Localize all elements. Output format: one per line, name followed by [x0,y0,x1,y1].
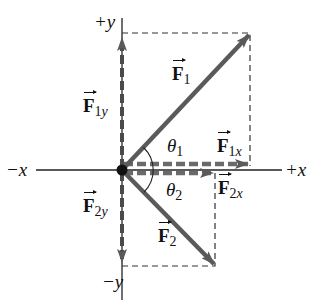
neg-y-label: −y [102,272,123,291]
theta1-label: θ1 [167,136,183,159]
neg-x-label: −x [6,160,27,179]
f2x-label: F2x [218,178,243,201]
f1-label: F1 [172,64,191,87]
f2y-label: F2y [83,196,108,219]
f1y-label: F1y [83,96,108,119]
theta2-label: θ2 [166,180,182,203]
f2-label: F2 [158,226,177,249]
vector-diagram [0,0,310,302]
pos-x-label: +x [285,160,306,179]
f1x-label: F1x [217,136,242,159]
pos-y-label: +y [94,12,115,31]
origin-point [117,165,128,176]
